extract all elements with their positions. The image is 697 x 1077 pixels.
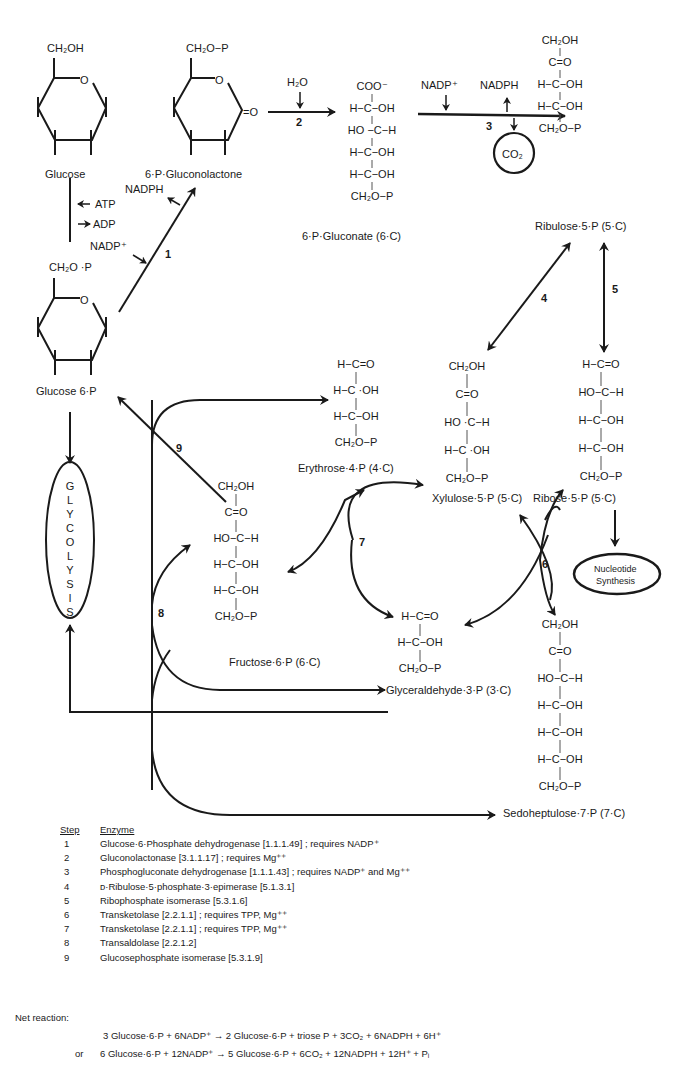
fructose6p-formula-line: H−C−OH <box>213 584 258 596</box>
nadp-plus-label-3: NADP⁺ <box>421 79 458 91</box>
glycolysis-letter: S <box>66 578 73 590</box>
ring-o: O <box>80 294 89 306</box>
legend-enzyme-name: Transketolase [2.2.1.1] ; requires TPP, … <box>100 909 287 920</box>
step7-arrow <box>288 490 364 572</box>
net-reaction-or: or <box>75 1048 83 1059</box>
legend-header-enzyme: Enzyme <box>100 824 134 835</box>
fructose6p-label: Fructose·6·P (6·C) <box>229 656 320 668</box>
gluconate-formula-line: COO⁻ <box>356 80 387 92</box>
glycolysis-letter: S <box>66 606 73 618</box>
step-number-9: 9 <box>176 442 182 454</box>
xylulose5p-label: Xylulose·5·P (5·C) <box>432 492 522 504</box>
xylulose5p-formula-line: H−C ·OH <box>444 444 490 456</box>
ribose5p-label: Ribose·5·P (5·C) <box>533 492 616 504</box>
legend-enzyme-name: Ribophosphate isomerase [5.3.1.6] <box>100 895 247 906</box>
glucose6p-ring <box>38 278 106 375</box>
step3-arrow <box>418 114 565 116</box>
step1-arrow <box>119 188 195 312</box>
ribose5p-formula-line: H−C−OH <box>578 442 623 454</box>
sedoheptulose7p-formula-line: HO−C−H <box>537 672 582 684</box>
legend-step-number: 6 <box>64 909 94 920</box>
legend-step-number: 5 <box>64 895 94 906</box>
glycolysis-label: GLYCOLYSIS <box>66 480 75 618</box>
legend-enzyme-name: ᴅ·Ribulose·5·phosphate·3·epimerase [5.1.… <box>100 881 294 892</box>
sedoheptulose7p-formula-line: C=O <box>549 645 572 657</box>
gluconolactone-ring <box>174 58 242 155</box>
legend-enzyme-name: Glucosephosphate isomerase [5.3.1.9] <box>100 952 263 963</box>
step4-arrow <box>488 243 570 350</box>
erythrose4p-formula-line: H−C=O <box>337 358 375 370</box>
xylulose5p-formula-line: CH₂OH <box>449 360 486 372</box>
ribose5p-formula-line: H−C=O <box>582 358 620 370</box>
glyceraldehyde3p-formula-line: CH₂O−P <box>399 662 441 674</box>
h2o-label: H₂O <box>287 76 308 88</box>
erythrose4p-formula-line: H−C ·OH <box>333 384 379 396</box>
ribulose5p-formula-line: CH₂OH <box>542 34 579 46</box>
sedoheptulose7p-formula-line: H−C−OH <box>537 699 582 711</box>
pentose-phosphate-pathway-diagram: CH₂OH O Glucose CH₂O−P O =O 6·P·Gluconol… <box>0 0 697 820</box>
glycolysis-letter: L <box>67 550 73 562</box>
legend-step-number: 8 <box>64 937 94 948</box>
glycolysis-letter: O <box>66 536 75 548</box>
legend-enzyme-name: Glucose·6·Phosphate dehydrogenase [1.1.1… <box>100 838 379 849</box>
xylulose5p-formula-line: C=O <box>456 388 479 400</box>
glucose-label: Glucose <box>45 168 85 180</box>
glycolysis-letter: I <box>68 592 71 604</box>
legend-step-number: 1 <box>64 838 94 849</box>
erythrose4p-formula-line: H−C−OH <box>333 410 378 422</box>
ribose5p-formula-line: H−C−OH <box>578 414 623 426</box>
glycolysis-letter: L <box>67 494 73 506</box>
fructose6p-formula-line: H−C−OH <box>213 558 258 570</box>
step-number-8: 8 <box>158 607 164 619</box>
net-reaction-label: Net reaction: <box>15 1012 69 1023</box>
fructose6p-formula-line: HO−C−H <box>213 532 258 544</box>
sedoheptulose7p-formula-line: H−C−OH <box>537 726 582 738</box>
xylulose5p-formula-line: CH₂O−P <box>446 472 488 484</box>
erythrose4p-label: Erythrose·4·P (4·C) <box>298 462 394 474</box>
net-reaction-line2: 6 Glucose·6·P + 12NADP⁺ → 5 Glucose·6·P … <box>100 1048 429 1059</box>
ribose5p-formula-line: CH₂O−P <box>580 470 622 482</box>
step-number-6: 6 <box>542 558 548 570</box>
step-number-3: 3 <box>486 120 492 132</box>
step-number-7: 7 <box>359 536 365 548</box>
glycolysis-letter: C <box>66 522 74 534</box>
nucleotide-label-2: Synthesis <box>596 576 636 586</box>
gluconate-label: 6·P·Gluconate (6·C) <box>302 230 401 242</box>
co2-label: CO₂ <box>502 148 523 160</box>
legend-enzyme-name: Gluconolactonase [3.1.1.17] ; requires M… <box>100 852 286 863</box>
ring-o: O <box>215 74 224 86</box>
glucose-ring <box>38 58 106 155</box>
step9-arrow <box>118 397 226 502</box>
glyceraldehyde3p-label: Glyceraldehyde·3·P (3·C) <box>386 684 511 696</box>
sedoheptulose7p-label: Sedoheptulose·7·P (7·C) <box>503 807 625 819</box>
gluconate-formula-line: HO −C−H <box>348 124 396 136</box>
gluconate-formula-line: H−C−OH <box>349 102 394 114</box>
glyceraldehyde3p-formula-line: H−C=O <box>401 610 439 622</box>
atp-label: ATP <box>95 198 116 210</box>
glycolysis-letter: G <box>66 480 75 492</box>
fischer-structures: COO⁻H−C−OHHO −C−HH−C−OHH−C−OHCH₂O−P6·P·G… <box>213 34 626 819</box>
ring-o: O <box>80 74 89 86</box>
fructose6p-formula-line: CH₂O−P <box>215 610 257 622</box>
legend-header-step: Step <box>60 824 90 835</box>
glyceraldehyde3p-formula-line: H−C−OH <box>397 636 442 648</box>
ribulose5p-formula-line: H−C−OH <box>537 78 582 90</box>
glucose6p-top: CH₂O ·P <box>49 261 92 273</box>
gluconolactone-label: 6·P·Gluconolactone <box>145 168 242 180</box>
legend-step-number: 2 <box>64 852 94 863</box>
glycolysis-letter: Y <box>66 508 74 520</box>
fructose6p-formula-line: CH₂OH <box>218 480 255 492</box>
gluconolactone-top: CH₂O−P <box>186 42 228 54</box>
legend-enzyme-name: Transaldolase [2.2.1.2] <box>100 937 196 948</box>
legend-step-number: 7 <box>64 923 94 934</box>
nadph-label-1: NADPH <box>125 183 164 195</box>
step-number-5: 5 <box>612 283 618 295</box>
step-number-1: 1 <box>165 248 171 260</box>
adp-label: ADP <box>93 218 116 230</box>
glycolysis-letter: Y <box>66 564 74 576</box>
nadp-plus-label-1: NADP⁺ <box>90 240 127 252</box>
nucleotide-ellipse <box>574 554 660 594</box>
glucose-ch2oh: CH₂OH <box>47 42 84 54</box>
legend-step-number: 4 <box>64 881 94 892</box>
ribose5p-formula-line: HO−C−H <box>578 386 623 398</box>
